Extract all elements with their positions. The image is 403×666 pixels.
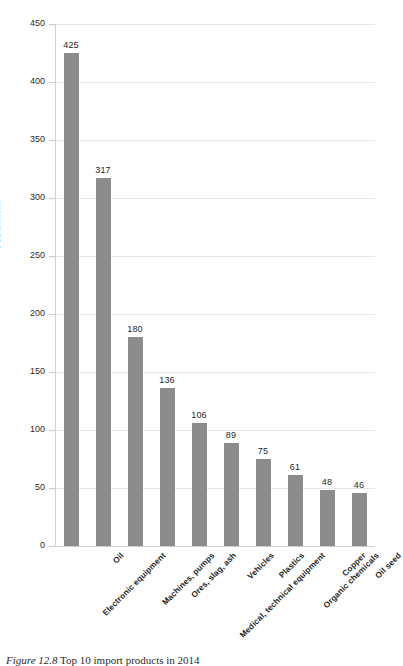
- y-axis-tick-label: 400: [0, 76, 45, 86]
- bar-value-label: 106: [184, 410, 214, 420]
- bar: [320, 490, 335, 546]
- bar-value-label: 425: [56, 40, 86, 50]
- y-axis-tick-label: 300: [0, 192, 45, 202]
- x-axis-category-label: Electronic equipment: [101, 551, 168, 618]
- gridline: [55, 546, 375, 547]
- y-axis-tick-label: 350: [0, 134, 45, 144]
- figure-caption: Figure 12.8 Top 10 import products in 20…: [6, 654, 200, 666]
- bar: [192, 423, 207, 546]
- bar: [352, 493, 367, 546]
- bar: [160, 388, 175, 546]
- y-axis-tick-label: 50: [0, 482, 45, 492]
- y-axis-tick: [49, 546, 55, 547]
- bar-value-label: 61: [280, 462, 310, 472]
- bar-value-label: 48: [312, 477, 342, 487]
- y-axis-tick-label: 150: [0, 366, 45, 376]
- bar: [128, 337, 143, 546]
- bar-value-label: 136: [152, 375, 182, 385]
- x-axis-category-label: Medical, technical equipment: [238, 551, 327, 640]
- bar-value-label: 317: [88, 165, 118, 175]
- y-axis-title: US$ billions: [0, 199, 2, 250]
- y-axis-tick-label: 250: [0, 250, 45, 260]
- x-axis-category-label: Vehicles: [246, 551, 276, 581]
- bar: [288, 475, 303, 546]
- y-axis-tick-label: 100: [0, 424, 45, 434]
- bar-value-label: 46: [344, 480, 374, 490]
- caption-text: Top 10 import products in 2014: [60, 654, 199, 666]
- x-axis-category-label: Oil: [111, 551, 125, 565]
- y-axis-tick-label: 450: [0, 18, 45, 28]
- y-axis-tick-label: 200: [0, 308, 45, 318]
- bar: [64, 53, 79, 546]
- bar-value-label: 89: [216, 430, 246, 440]
- bar-value-label: 180: [120, 324, 150, 334]
- plot-area: [55, 24, 375, 546]
- bar-value-label: 75: [248, 446, 278, 456]
- bar: [224, 443, 239, 546]
- caption-number: Figure 12.8: [6, 654, 58, 666]
- y-axis-tick-label: 0: [0, 540, 45, 550]
- bar: [256, 459, 271, 546]
- bar: [96, 178, 111, 546]
